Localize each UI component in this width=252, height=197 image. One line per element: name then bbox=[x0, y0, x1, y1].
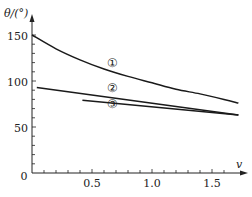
y-tick-100: 100 bbox=[7, 76, 28, 89]
series-2-line bbox=[37, 87, 239, 115]
series-2-label: ② bbox=[107, 81, 118, 95]
y-tick-150: 150 bbox=[7, 30, 28, 43]
y-axis-arrow-icon bbox=[30, 14, 35, 22]
x-axis-label: v bbox=[236, 158, 243, 171]
y-tick-50: 50 bbox=[14, 122, 28, 135]
x-tick-1-0: 1.0 bbox=[143, 177, 161, 190]
axes bbox=[30, 14, 249, 176]
x-axis-arrow-icon bbox=[240, 171, 248, 176]
series-layer bbox=[32, 35, 238, 115]
y-ticks bbox=[32, 35, 36, 164]
line-chart: θ/(°) 150 100 50 0 0.5 1.0 1.5 v ① ② ③ bbox=[0, 0, 252, 197]
x-ticks bbox=[44, 169, 224, 173]
x-tick-0-5: 0.5 bbox=[83, 177, 101, 190]
y-axis-label: θ/(°) bbox=[4, 7, 28, 20]
origin-label: 0 bbox=[21, 170, 28, 183]
series-3-label: ③ bbox=[107, 97, 118, 111]
series-1-line bbox=[32, 35, 238, 103]
x-tick-1-5: 1.5 bbox=[203, 177, 221, 190]
series-1-label: ① bbox=[107, 56, 118, 70]
